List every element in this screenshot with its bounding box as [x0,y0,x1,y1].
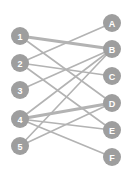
graph-edge-4-D [20,103,112,119]
graph-node-circle-1[interactable] [11,27,29,45]
graph-node-circle-4[interactable] [11,110,29,128]
graph-node-1[interactable]: 1 [11,27,29,45]
graph-node-A[interactable]: A [103,14,121,32]
graph-node-circle-E[interactable] [103,121,121,139]
graph-node-circle-3[interactable] [11,81,29,99]
graph-node-circle-C[interactable] [103,67,121,85]
nodes-layer: 12345ABCDEF [11,14,121,166]
edges-layer [20,23,112,157]
graph-node-circle-D[interactable] [103,94,121,112]
graph-node-B[interactable]: B [103,40,121,58]
graph-node-circle-2[interactable] [11,54,29,72]
graph-node-2[interactable]: 2 [11,54,29,72]
graph-edge-5-B [20,49,112,146]
graph-node-E[interactable]: E [103,121,121,139]
graph-node-circle-F[interactable] [103,148,121,166]
graph-edge-2-A [20,23,112,63]
graph-node-circle-A[interactable] [103,14,121,32]
graph-node-F[interactable]: F [103,148,121,166]
graph-node-3[interactable]: 3 [11,81,29,99]
graph-node-C[interactable]: C [103,67,121,85]
graph-node-circle-5[interactable] [11,137,29,155]
graph-node-circle-B[interactable] [103,40,121,58]
graph-node-D[interactable]: D [103,94,121,112]
graph-svg-surface: 12345ABCDEF [0,0,129,180]
graph-node-5[interactable]: 5 [11,137,29,155]
graph-node-4[interactable]: 4 [11,110,29,128]
bipartite-graph-diagram: 12345ABCDEF [0,0,129,180]
